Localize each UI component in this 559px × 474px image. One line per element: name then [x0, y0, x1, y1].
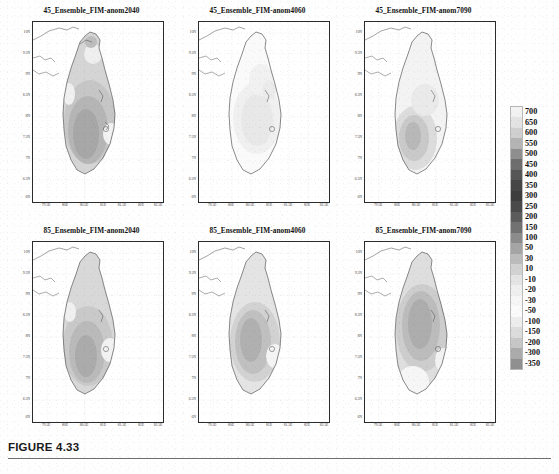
- x-tick: 82.5E: [320, 203, 329, 207]
- x-tick: 79.5E: [42, 203, 51, 207]
- x-tick: 80E: [228, 423, 234, 427]
- y-tick: 8N: [357, 114, 362, 118]
- y-tick: 9N: [357, 292, 362, 296]
- panel-title: 85_Ensemble_FIM-anom2040: [10, 226, 173, 235]
- panel-title: 45_Ensemble_FIM-anom2040: [10, 6, 173, 15]
- colorbar-swatch: [511, 233, 522, 244]
- colorbar-tick-label: -100: [525, 316, 540, 325]
- colorbar-swatch: [511, 306, 522, 317]
- coastline-india: [365, 27, 411, 40]
- colorbar-tick-label: -20: [525, 285, 536, 294]
- y-tick: 6N: [357, 415, 362, 419]
- y-tick: 9.5N: [355, 51, 362, 55]
- colorbar-tick-label: 350: [525, 180, 537, 189]
- colorbar-swatch: [511, 317, 522, 328]
- colorbar-swatch: [511, 117, 522, 128]
- y-tick: 9.5N: [189, 51, 196, 55]
- y-tick: 7.5N: [355, 355, 362, 359]
- x-tick: 82E: [470, 203, 476, 207]
- colorbar-swatch: [511, 275, 522, 286]
- plot-area[interactable]: [198, 21, 330, 203]
- figure-root: 45_Ensemble_FIM-anom2040: [0, 0, 559, 474]
- y-tick: 7.5N: [23, 355, 30, 359]
- colorbar-tick-label: 30: [525, 253, 533, 262]
- plot-area[interactable]: [32, 21, 164, 203]
- panel-grid: 45_Ensemble_FIM-anom2040: [10, 6, 505, 438]
- y-tick: 6.5N: [355, 397, 362, 401]
- x-tick: 79.5E: [208, 203, 217, 207]
- y-tick: 8.5N: [355, 313, 362, 317]
- y-tick: 9.5N: [23, 51, 30, 55]
- map-panel-45-anom7090[interactable]: 45_Ensemble_FIM-anom7090: [342, 6, 505, 221]
- colorbar-swatch: [511, 222, 522, 233]
- x-tick: 81E: [266, 203, 272, 207]
- y-tick: 8.5N: [23, 93, 30, 97]
- colorbar-swatch: [511, 285, 522, 296]
- x-tick: 79.5E: [374, 423, 383, 427]
- x-tick: 80E: [228, 203, 234, 207]
- x-tick: 79.5E: [42, 423, 51, 427]
- coastline-india: [199, 247, 245, 260]
- map-panel-85-anom7090[interactable]: 85_Ensemble_FIM-anom7090: [342, 226, 505, 441]
- colorbar-tick-label: 400: [525, 170, 537, 179]
- x-tick: 81.5E: [450, 423, 459, 427]
- x-tick: 81E: [432, 423, 438, 427]
- map-panel-85-anom2040[interactable]: 85_Ensemble_FIM-anom2040: [10, 226, 173, 441]
- map-panel-45-anom2040[interactable]: 45_Ensemble_FIM-anom2040: [10, 6, 173, 221]
- colorbar-swatch: [511, 128, 522, 139]
- colorbar-swatch: [511, 254, 522, 265]
- y-tick: 10N: [190, 30, 196, 34]
- y-tick: 10N: [24, 250, 30, 254]
- figure-caption: FIGURE 4.33: [8, 441, 551, 459]
- colorbar-tick-label: 600: [525, 128, 537, 137]
- map-canvas: [33, 22, 163, 202]
- y-tick: 9.5N: [355, 271, 362, 275]
- plot-area[interactable]: [364, 241, 496, 423]
- y-tick: 8N: [25, 334, 30, 338]
- colorbar-swatch: [511, 170, 522, 181]
- colorbar-tick-label: -50: [525, 306, 536, 315]
- contour-fills: [229, 252, 284, 394]
- x-tick: 82.5E: [154, 423, 163, 427]
- contour-fills: [63, 32, 119, 174]
- colorbar-swatch: [511, 180, 522, 191]
- x-tick: 82E: [470, 423, 476, 427]
- y-tick: 7.5N: [23, 135, 30, 139]
- colorbar-tick-label: -200: [525, 337, 540, 346]
- x-tick: 80E: [394, 423, 400, 427]
- y-tick: 9.5N: [23, 271, 30, 275]
- map-panel-85-anom4060[interactable]: 85_Ensemble_FIM-anom4060: [176, 226, 339, 441]
- y-tick: 9N: [191, 72, 196, 76]
- colorbar-tick-label: 700: [525, 107, 537, 116]
- colorbar-swatch: [511, 149, 522, 160]
- map-panel-45-anom4060[interactable]: 45_Ensemble_FIM-anom4060: [176, 6, 339, 221]
- x-tick: 81E: [100, 423, 106, 427]
- plot-area[interactable]: [198, 241, 330, 423]
- colorbar-swatch: [511, 159, 522, 170]
- plot-area[interactable]: [32, 241, 164, 423]
- y-tick: 7N: [191, 376, 196, 380]
- colorbar-tick-label: 10: [525, 264, 533, 273]
- caption-label: FIGURE 4.33: [8, 441, 551, 453]
- y-tick: 6.5N: [189, 177, 196, 181]
- map-canvas: [33, 242, 163, 422]
- colorbar-swatch: [511, 359, 522, 370]
- map-canvas: [365, 22, 495, 202]
- x-tick: 82E: [138, 423, 144, 427]
- x-tick: 81E: [100, 203, 106, 207]
- plot-area[interactable]: [364, 21, 496, 203]
- x-tick: 80E: [394, 203, 400, 207]
- colorbar-tick-label: -300: [525, 348, 540, 357]
- y-tick: 7N: [357, 376, 362, 380]
- y-tick: 10N: [190, 250, 196, 254]
- x-tick: 80E: [62, 203, 68, 207]
- y-tick: 8.5N: [355, 93, 362, 97]
- x-tick: 80E: [62, 423, 68, 427]
- x-tick: 82.5E: [320, 423, 329, 427]
- coastline-india: [199, 27, 245, 40]
- map-canvas: [199, 22, 329, 202]
- y-tick: 9N: [25, 292, 30, 296]
- x-tick: 79.5E: [208, 423, 217, 427]
- colorbar-swatch: [511, 191, 522, 202]
- x-tick: 79.5E: [374, 203, 383, 207]
